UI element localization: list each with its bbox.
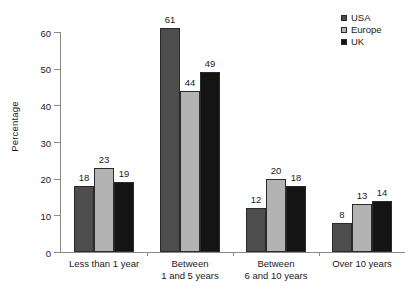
x-axis-category-label: Less than 1 year [61, 258, 147, 270]
legend-swatch-icon [341, 27, 347, 33]
bar-value-label: 18 [79, 172, 90, 183]
x-axis-tick [319, 252, 320, 256]
y-axis-tick-label: 20 [40, 174, 51, 185]
legend-swatch-icon [341, 15, 347, 21]
bar-value-label: 19 [119, 168, 130, 179]
y-axis-tick: 0 [54, 252, 60, 253]
bar[interactable]: 14 [372, 201, 392, 252]
bar[interactable]: 18 [286, 186, 306, 252]
bar[interactable]: 18 [74, 186, 94, 252]
x-axis-category-label: Over 10 years [319, 258, 405, 270]
y-axis-tick-label: 50 [40, 64, 51, 75]
bar-group: 182319 [74, 32, 134, 252]
y-axis-tick: 50 [54, 69, 60, 70]
bar[interactable]: 61 [160, 28, 180, 252]
bar[interactable]: 44 [180, 91, 200, 252]
bar[interactable]: 12 [246, 208, 266, 252]
y-axis-tick-label: 0 [46, 247, 51, 258]
bar-value-label: 44 [185, 77, 196, 88]
y-axis-title: Percentage [4, 0, 24, 252]
y-axis-tick: 30 [54, 142, 60, 143]
x-axis-category-label: Between 1 and 5 years [147, 258, 233, 281]
legend-label: Europe [351, 24, 382, 35]
bar[interactable]: 23 [94, 168, 114, 252]
bar-group: 81314 [332, 32, 392, 252]
legend-item[interactable]: USA [341, 12, 382, 23]
y-axis-tick-label: 10 [40, 210, 51, 221]
legend: USAEuropeUK [341, 12, 382, 48]
bar-value-label: 8 [339, 209, 344, 220]
legend-item[interactable]: Europe [341, 24, 382, 35]
y-axis-tick-label: 30 [40, 137, 51, 148]
bar-group: 122018 [246, 32, 306, 252]
bar[interactable]: 19 [114, 182, 134, 252]
y-axis-tick: 10 [54, 215, 60, 216]
bar-value-label: 18 [291, 172, 302, 183]
bar-value-label: 13 [357, 190, 368, 201]
bar-value-label: 14 [377, 187, 388, 198]
y-axis-tick-label: 40 [40, 100, 51, 111]
x-axis-tick [233, 252, 234, 256]
plot-area: 18231961444912201881314 [61, 32, 405, 252]
y-axis-tick: 40 [54, 105, 60, 106]
bar[interactable]: 20 [266, 179, 286, 252]
legend-swatch-icon [341, 39, 347, 45]
bar-value-label: 23 [99, 154, 110, 165]
bar[interactable]: 8 [332, 223, 352, 252]
bar-value-label: 61 [165, 14, 176, 25]
x-axis-category-label: Between 6 and 10 years [233, 258, 319, 281]
legend-item[interactable]: UK [341, 36, 382, 47]
bar-value-label: 49 [205, 58, 216, 69]
bar-value-label: 20 [271, 165, 282, 176]
bar[interactable]: 49 [200, 72, 220, 252]
bar-value-label: 12 [251, 194, 262, 205]
bar[interactable]: 13 [352, 204, 372, 252]
legend-label: USA [351, 12, 371, 23]
y-axis-tick: 60 [54, 32, 60, 33]
x-axis-tick [147, 252, 148, 256]
y-axis-tick: 20 [54, 179, 60, 180]
y-axis-title-text: Percentage [9, 101, 20, 152]
bar-chart: Percentage 0102030405060 182319614449122… [0, 0, 418, 299]
legend-label: UK [351, 36, 364, 47]
y-axis-tick-label: 60 [40, 27, 51, 38]
bar-group: 614449 [160, 32, 220, 252]
